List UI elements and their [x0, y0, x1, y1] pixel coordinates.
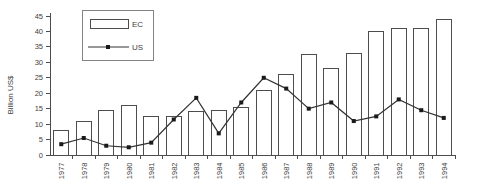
y-tick-label-30: 30	[35, 58, 43, 67]
ec-bar-1992	[391, 28, 406, 155]
us-marker-1982	[172, 117, 176, 121]
us-marker-1978	[82, 136, 86, 140]
x-tick-label-1980: 1980	[125, 163, 134, 180]
legend-ec-swatch	[90, 20, 128, 29]
y-tick-label-45: 45	[35, 12, 43, 21]
us-marker-1985	[239, 100, 243, 104]
y-tick-label-40: 40	[35, 27, 43, 36]
x-tick-label-1990: 1990	[350, 163, 359, 180]
y-tick-label-0: 0	[39, 151, 43, 160]
y-tick-label-10: 10	[35, 120, 43, 129]
ec-bar-1981	[144, 116, 159, 155]
ec-bar-1979	[99, 110, 114, 155]
us-marker-1990	[352, 119, 356, 123]
us-marker-1987	[284, 87, 288, 91]
us-marker-1994	[442, 116, 446, 120]
us-marker-1984	[217, 131, 221, 135]
x-tick-label-1979: 1979	[102, 163, 111, 180]
x-tick-label-1993: 1993	[417, 163, 426, 180]
y-tick-label-35: 35	[35, 42, 43, 51]
ec-bar-1982	[166, 116, 181, 155]
ec-bar-1985	[234, 107, 249, 155]
us-marker-1992	[397, 97, 401, 101]
us-marker-1977	[59, 142, 63, 146]
us-marker-1980	[127, 145, 131, 149]
ec-bar-1988	[301, 55, 316, 155]
us-marker-1983	[194, 96, 198, 100]
us-marker-1991	[374, 114, 378, 118]
x-tick-label-1994: 1994	[440, 163, 449, 180]
us-marker-1986	[262, 76, 266, 80]
ec-bar-1991	[369, 31, 384, 155]
x-tick-label-1985: 1985	[237, 163, 246, 180]
us-line	[61, 78, 444, 147]
x-tick-label-1982: 1982	[170, 163, 179, 180]
chart-figure: 0510152025303540451977197819791980198119…	[0, 0, 477, 191]
y-tick-label-25: 25	[35, 73, 43, 82]
x-tick-label-1992: 1992	[395, 163, 404, 180]
y-axis-title: Billion US$	[6, 75, 15, 115]
y-tick-label-5: 5	[39, 135, 43, 144]
ec-bar-1986	[256, 90, 271, 155]
ec-bar-1994	[436, 19, 451, 155]
x-tick-label-1987: 1987	[282, 163, 291, 180]
ec-bar-1983	[189, 112, 204, 155]
x-tick-label-1977: 1977	[57, 163, 66, 180]
x-tick-label-1988: 1988	[305, 163, 314, 180]
us-marker-1981	[149, 141, 153, 145]
legend-us-label: US	[132, 43, 143, 52]
y-tick-label-20: 20	[35, 89, 43, 98]
x-tick-label-1983: 1983	[192, 163, 201, 180]
x-tick-label-1984: 1984	[215, 163, 224, 180]
y-tick-label-15: 15	[35, 104, 43, 113]
ec-us-bar-line-chart: 0510152025303540451977197819791980198119…	[0, 0, 477, 191]
us-marker-1988	[307, 107, 311, 111]
legend-ec-label: EC	[132, 20, 143, 29]
x-tick-label-1986: 1986	[260, 163, 269, 180]
x-tick-label-1989: 1989	[327, 163, 336, 180]
ec-bar-1989	[324, 69, 339, 155]
ec-bar-1990	[346, 53, 361, 155]
x-tick-label-1991: 1991	[372, 163, 381, 180]
x-tick-label-1981: 1981	[147, 163, 156, 180]
us-marker-1993	[419, 108, 423, 112]
us-marker-1989	[329, 100, 333, 104]
legend-box	[82, 10, 153, 60]
x-tick-label-1978: 1978	[80, 163, 89, 180]
ec-bar-1993	[414, 28, 429, 155]
us-marker-1979	[104, 144, 108, 148]
legend-us-marker	[106, 45, 110, 49]
